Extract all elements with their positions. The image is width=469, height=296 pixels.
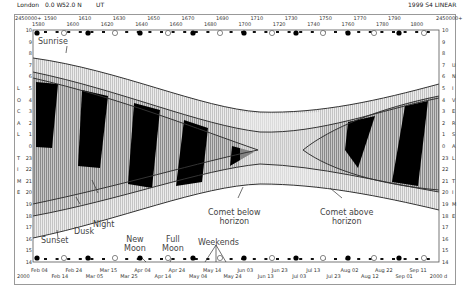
full-moon-icon	[371, 30, 376, 35]
weekend-marker	[172, 31, 175, 33]
weekend-marker	[311, 31, 314, 33]
weekend-marker	[311, 258, 314, 260]
weekend-marker	[264, 258, 267, 260]
comet-above-line2: horizon	[320, 217, 373, 226]
full-moon-label: Full Moon	[162, 235, 184, 253]
comet-below-horizon-label: Comet below horizon	[208, 208, 261, 226]
weekend-marker	[415, 31, 418, 33]
weekend-marker	[392, 31, 395, 33]
weekend-marker	[44, 31, 47, 33]
weekend-marker	[253, 258, 256, 260]
full-moon-icon	[217, 30, 222, 35]
weekend-marker	[404, 258, 407, 260]
weekend-marker	[148, 31, 151, 33]
comet-below-line1: Comet below	[208, 208, 261, 217]
weekend-marker	[276, 258, 279, 260]
new-moon-line1: New	[124, 235, 146, 244]
weekend-marker	[427, 31, 430, 33]
comet-below-line2: horizon	[208, 217, 261, 226]
weekend-marker	[299, 31, 302, 33]
weekend-marker	[183, 31, 186, 33]
full-moon-line1: Full	[162, 235, 184, 244]
weekend-marker	[334, 258, 337, 260]
weekend-marker	[357, 31, 360, 33]
weekend-marker	[44, 258, 47, 260]
new-moon-icon	[34, 255, 39, 260]
weekend-marker	[427, 258, 430, 260]
new-moon-icon	[345, 30, 350, 35]
full-moon-icon	[371, 255, 376, 260]
weekends-label: Weekends	[198, 238, 239, 247]
night-label: Night	[93, 220, 115, 229]
new-moon-icon	[190, 255, 195, 260]
weekend-marker	[160, 258, 163, 260]
new-moon-line2: Moon	[124, 244, 146, 253]
new-moon-icon	[85, 255, 90, 260]
full-moon-icon	[269, 30, 274, 35]
comet-above-horizon-label: Comet above horizon	[320, 208, 373, 226]
weekend-marker	[264, 31, 267, 33]
weekend-marker	[148, 258, 151, 260]
weekend-marker	[125, 31, 128, 33]
weekend-marker	[276, 31, 279, 33]
weekend-marker	[67, 31, 70, 33]
full-moon-icon	[165, 30, 170, 35]
weekend-marker	[334, 31, 337, 33]
weekend-marker	[183, 258, 186, 260]
weekend-marker	[392, 258, 395, 260]
new-moon-icon	[137, 255, 142, 260]
new-moon-icon	[345, 255, 350, 260]
new-moon-icon	[396, 30, 401, 35]
new-moon-icon	[34, 30, 39, 35]
full-moon-icon	[421, 30, 426, 35]
weekend-marker	[380, 258, 383, 260]
weekend-marker	[380, 31, 383, 33]
full-moon-icon	[61, 30, 66, 35]
full-moon-icon	[165, 255, 170, 260]
weekend-marker	[404, 31, 407, 33]
new-moon-icon	[293, 30, 298, 35]
new-moon-icon	[241, 30, 246, 35]
weekend-marker	[102, 258, 105, 260]
new-moon-icon	[241, 255, 246, 260]
new-moon-label: New Moon	[124, 235, 146, 253]
comet-above-line1: Comet above	[320, 208, 373, 217]
weekend-marker	[56, 258, 59, 260]
weekend-marker	[79, 31, 82, 33]
full-moon-icon	[320, 255, 325, 260]
weekend-marker	[125, 258, 128, 260]
weekend-marker	[56, 31, 59, 33]
weekend-marker	[90, 31, 93, 33]
new-moon-icon	[137, 30, 142, 35]
dusk-label: Dusk	[74, 227, 94, 236]
weekend-marker	[90, 258, 93, 260]
full-moon-line2: Moon	[162, 244, 184, 253]
new-moon-icon	[396, 255, 401, 260]
full-moon-icon	[320, 30, 325, 35]
weekend-marker	[415, 258, 418, 260]
sunset-label: Sunset	[41, 236, 68, 245]
full-moon-icon	[61, 255, 66, 260]
full-moon-icon	[112, 255, 117, 260]
full-moon-icon	[112, 30, 117, 35]
weekend-marker	[299, 258, 302, 260]
weekend-marker	[79, 258, 82, 260]
weekend-marker	[288, 31, 291, 33]
new-moon-icon	[190, 30, 195, 35]
weekend-marker	[357, 258, 360, 260]
weekend-marker	[206, 258, 209, 260]
weekend-marker	[67, 258, 70, 260]
weekend-marker	[160, 31, 163, 33]
sunrise-label: Sunrise	[38, 37, 68, 46]
weekend-marker	[172, 258, 175, 260]
new-moon-icon	[85, 30, 90, 35]
full-moon-icon	[217, 255, 222, 260]
visibility-chart	[0, 0, 469, 296]
full-moon-icon	[269, 255, 274, 260]
new-moon-icon	[293, 255, 298, 260]
weekend-marker	[230, 258, 233, 260]
weekend-marker	[206, 31, 209, 33]
full-moon-icon	[421, 255, 426, 260]
weekend-marker	[230, 31, 233, 33]
weekend-marker	[288, 258, 291, 260]
